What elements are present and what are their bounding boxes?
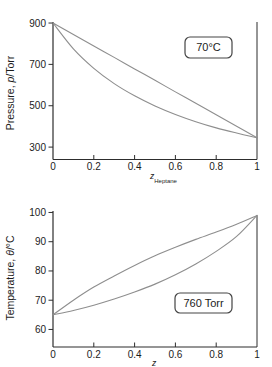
x-tick-label: 0.2 (87, 349, 101, 360)
x-tick-label: 0.6 (168, 161, 182, 172)
x-tick-label: 0.8 (209, 349, 223, 360)
x-tick-label: 0.4 (128, 161, 142, 172)
y-tick-label: 900 (29, 18, 46, 29)
figure-canvas: 30050070090000.20.40.60.81Pressure, p/To… (0, 0, 272, 367)
y-tick-label: 500 (29, 100, 46, 111)
annotation-label: 70°C (196, 41, 221, 53)
y-tick-label: 100 (29, 207, 46, 218)
figure-page: 30050070090000.20.40.60.81Pressure, p/To… (0, 0, 272, 367)
y-tick-label: 300 (29, 142, 46, 153)
x-tick-label: 0.6 (168, 349, 182, 360)
y-tick-label: 60 (35, 324, 47, 335)
x-tick-label: 1 (254, 349, 260, 360)
x-tick-label: 1 (254, 161, 260, 172)
y-tick-label: 90 (35, 236, 47, 247)
x-axis-label: zHeptane (149, 171, 178, 184)
x-tick-label: 0.8 (209, 161, 223, 172)
y-tick-label: 70 (35, 295, 47, 306)
x-tick-label: 0 (50, 349, 56, 360)
y-tick-label: 700 (29, 59, 46, 70)
temperature-composition-chart: 6070809010000.20.40.60.81Temperature, θ/… (4, 207, 260, 367)
y-axis-label: Pressure, p/Torr (4, 55, 16, 130)
annotation-label: 760 Torr (183, 297, 223, 309)
x-tick-label: 0 (50, 161, 56, 172)
pressure-composition-chart: 30050070090000.20.40.60.81Pressure, p/To… (4, 18, 260, 184)
x-tick-label: 0.2 (87, 161, 101, 172)
x-axis-label: z (151, 358, 157, 367)
y-axis-label: Temperature, θ/°C (4, 235, 16, 321)
y-tick-label: 80 (35, 265, 47, 276)
x-tick-label: 0.4 (128, 349, 142, 360)
